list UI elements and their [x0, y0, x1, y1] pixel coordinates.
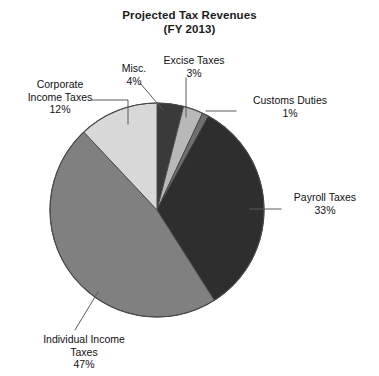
slice-label-payroll-name: Payroll Taxes: [294, 191, 356, 203]
slice-label-payroll-percent: 33%: [279, 204, 371, 217]
slice-label-misc-name: Misc.: [122, 62, 147, 74]
slice-label-customs-name: Customs Duties: [253, 94, 327, 106]
slice-label-corporate-income-taxes: Corporate Income Taxes 12%: [6, 78, 114, 116]
pie-slices: [50, 103, 264, 317]
slice-label-excise-taxes: Excise Taxes 3%: [152, 54, 236, 79]
slice-label-misc-percent: 4%: [110, 75, 158, 88]
slice-label-misc: Misc. 4%: [110, 62, 158, 87]
slice-label-payroll-taxes: Payroll Taxes 33%: [279, 191, 371, 216]
slice-label-individual-percent: 47%: [20, 358, 148, 371]
slice-label-individual-name2: Taxes: [70, 346, 97, 358]
slice-label-excise-name: Excise Taxes: [163, 54, 224, 66]
slice-label-individual-name1: Individual Income: [43, 333, 125, 345]
slice-label-excise-percent: 3%: [152, 67, 236, 80]
slice-label-corporate-name2: Income Taxes: [28, 91, 93, 103]
slice-label-customs-percent: 1%: [234, 107, 346, 120]
slice-label-corporate-name1: Corporate: [37, 78, 84, 90]
slice-label-customs-duties: Customs Duties 1%: [234, 94, 346, 119]
slice-label-corporate-percent: 12%: [6, 103, 114, 116]
chart-page: Projected Tax Revenues (FY 2013): [0, 0, 379, 376]
slice-label-individual-income-taxes: Individual Income Taxes 47%: [20, 333, 148, 371]
leader-line-individual: [75, 292, 98, 330]
